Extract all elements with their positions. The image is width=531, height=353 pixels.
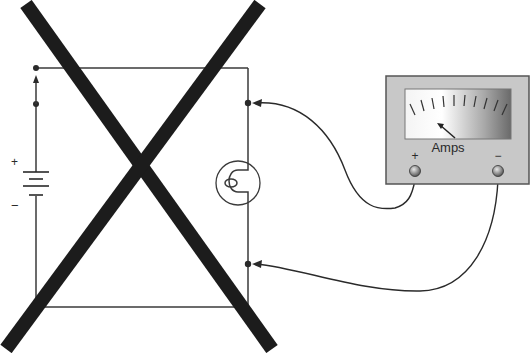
battery — [23, 172, 49, 195]
lamp — [216, 161, 260, 205]
positive-terminal — [410, 166, 421, 177]
node-upper — [245, 100, 251, 106]
battery-positive-label: + — [11, 155, 18, 169]
lead-arrow-upper-icon — [252, 99, 262, 107]
ammeter-unit-label: Amps — [431, 140, 465, 155]
negative-terminal — [493, 166, 504, 177]
lead-arrow-lower-icon — [252, 260, 262, 268]
switch — [33, 65, 39, 107]
switch-arrow-icon — [33, 75, 39, 83]
incorrect-x-icon — [6, 4, 272, 349]
ammeter-face — [405, 89, 511, 139]
ammeter: Amps + − — [386, 76, 529, 184]
ammeter-positive-label: + — [411, 149, 418, 163]
battery-negative-label: − — [11, 198, 19, 213]
negative-lead — [256, 180, 498, 291]
ammeter-negative-label: − — [494, 149, 501, 163]
node-lower — [245, 261, 251, 267]
circuit-diagram: + − Amps + − — [0, 0, 531, 353]
